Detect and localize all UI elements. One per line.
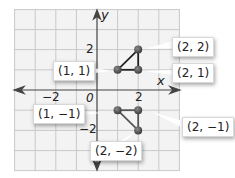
x-axis-label: x [157,73,165,88]
point-2-neg2 [134,126,142,134]
label-point-1-1: (1, 1) [53,61,95,81]
point-2-neg1 [134,106,142,114]
label-point-2-1: (2, 1) [172,63,214,83]
x-tick-2: 2 [135,90,143,104]
x-tick-neg2: −2 [42,90,60,104]
point-1-1 [114,66,122,74]
origin-label: 0 [86,91,94,105]
point-2-2 [134,46,142,54]
point-1-neg1 [114,106,122,114]
y-tick-2: 2 [86,42,94,56]
point-2-1 [134,66,142,74]
y-tick-neg2: −2 [79,122,97,136]
label-point-2-neg2: (2, −2) [90,141,142,161]
label-point-2-neg1: (2, −1) [182,117,234,137]
label-point-1-neg1: (1, −1) [33,104,85,124]
y-axis-label: y [101,7,109,22]
coordinate-plane-figure: y x −2 2 0 2 −2 (1, 1) (2, 2) (2, 1) (1,… [0,0,235,178]
label-point-2-2: (2, 2) [172,37,214,57]
